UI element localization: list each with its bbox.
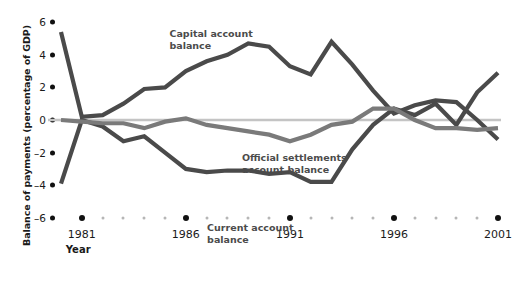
x-tick-label: 2001 bbox=[484, 228, 512, 241]
x-tick-dot-major bbox=[391, 215, 397, 221]
y-tick-label: 4 bbox=[24, 49, 46, 61]
x-tick-dot-minor bbox=[164, 216, 167, 219]
x-tick-label: 1996 bbox=[380, 228, 408, 241]
x-tick-dot-minor bbox=[143, 216, 146, 219]
annotation-capital-account: Capital account balance bbox=[169, 28, 252, 51]
y-tick-label: 6 bbox=[24, 16, 46, 28]
x-tick-dot-minor bbox=[309, 216, 312, 219]
x-axis-title: Year bbox=[66, 244, 91, 255]
x-tick-dot-major bbox=[79, 215, 85, 221]
x-tick-dot-minor bbox=[330, 216, 333, 219]
y-axis-ticks: 6420–2–4–6 bbox=[12, 0, 46, 307]
x-tick-dot-major bbox=[183, 215, 189, 221]
x-tick-dot-minor bbox=[413, 216, 416, 219]
y-tick-label: 2 bbox=[24, 81, 46, 93]
x-tick-label: 1981 bbox=[68, 228, 96, 241]
x-tick-dot-minor bbox=[351, 216, 354, 219]
annotation-current-account: Current account balance bbox=[207, 222, 293, 245]
x-tick-dot-minor bbox=[455, 216, 458, 219]
y-tick-label: –2 bbox=[24, 147, 46, 159]
x-tick-dot-minor bbox=[247, 216, 250, 219]
x-tick-dot-major bbox=[287, 215, 293, 221]
x-tick-dot-minor bbox=[122, 216, 125, 219]
x-tick-dot-major bbox=[495, 215, 501, 221]
y-tick-label: –4 bbox=[24, 179, 46, 191]
y-tick-label: –6 bbox=[24, 212, 46, 224]
annotation-official-settlements: Official settlements account balance bbox=[242, 152, 347, 175]
series-line bbox=[61, 109, 498, 142]
x-tick-label: 1986 bbox=[172, 228, 200, 241]
x-tick-dot-minor bbox=[101, 216, 104, 219]
x-tick-dot-minor bbox=[205, 216, 208, 219]
y-tick-label: 0 bbox=[24, 114, 46, 126]
x-tick-dot-minor bbox=[268, 216, 271, 219]
x-tick-dot-minor bbox=[476, 216, 479, 219]
x-tick-dot-minor bbox=[434, 216, 437, 219]
x-tick-dot-minor bbox=[226, 216, 229, 219]
x-tick-dot-minor bbox=[372, 216, 375, 219]
